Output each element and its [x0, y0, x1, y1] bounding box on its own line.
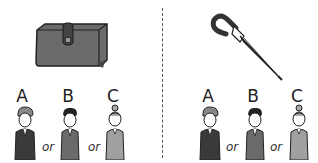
option-a-label: A: [12, 86, 32, 106]
umbrella-icon: [206, 12, 286, 82]
or-separator-2: or: [88, 140, 100, 154]
person-a-figure: [13, 106, 37, 160]
person-b-figure: [58, 106, 82, 160]
person-b-figure: [243, 106, 267, 160]
or-separator-1: or: [42, 140, 54, 154]
or-separator-2: or: [270, 140, 282, 154]
or-separator-1: or: [226, 140, 238, 154]
person-c-figure: [103, 104, 127, 160]
person-c-figure: [287, 104, 311, 160]
option-c-label: C: [103, 86, 123, 106]
option-c-label: C: [287, 86, 307, 106]
option-b-label: B: [243, 86, 263, 106]
option-a-label: A: [198, 86, 218, 106]
left-panel: A B C or or: [0, 0, 160, 163]
wallet-icon: [33, 22, 113, 68]
option-b-label: B: [58, 86, 78, 106]
person-a-figure: [198, 106, 222, 160]
right-panel: A B C or or: [162, 0, 318, 163]
